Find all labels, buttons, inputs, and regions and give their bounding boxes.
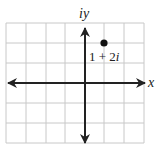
x-axis-label: x [147,75,155,90]
complex-plane-diagram: iy x 1 + 2i [0,0,168,154]
point-label: 1 + 2i [89,49,120,64]
y-axis-label: iy [79,6,90,21]
point-1-plus-2i [100,39,107,46]
